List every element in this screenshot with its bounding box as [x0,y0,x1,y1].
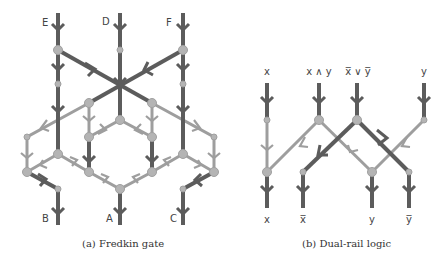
label-output-b: B [42,213,49,224]
label-output-y: y [369,214,375,225]
caption-dual-rail-logic: (b) Dual-rail logic [302,238,391,249]
caption-fredkin-gate: (a) Fredkin gate [82,238,164,249]
label-input-y: y [421,66,427,77]
label-input-f: F [166,17,172,28]
label-output-x: x [264,214,270,225]
diagram-canvas: E D F B A C [0,0,447,263]
label-input-x: x [264,66,270,77]
label-input-d: D [102,16,110,27]
fredkin-gate-diagram: E D F B A C [21,13,220,225]
label-input-x-and-y: x ∧ y [306,66,332,77]
label-output-notx: x̅ [300,214,307,225]
label-input-e: E [42,17,48,28]
dual-rail-diagram: x x ∧ y x̅ ∨ y̅ y x x̅ y y̅ [261,66,430,225]
label-output-noty: y̅ [406,214,413,225]
label-output-c: C [170,213,177,224]
label-input-notx-or-noty: x̅ ∨ y̅ [345,66,372,77]
label-output-a: A [106,213,113,224]
